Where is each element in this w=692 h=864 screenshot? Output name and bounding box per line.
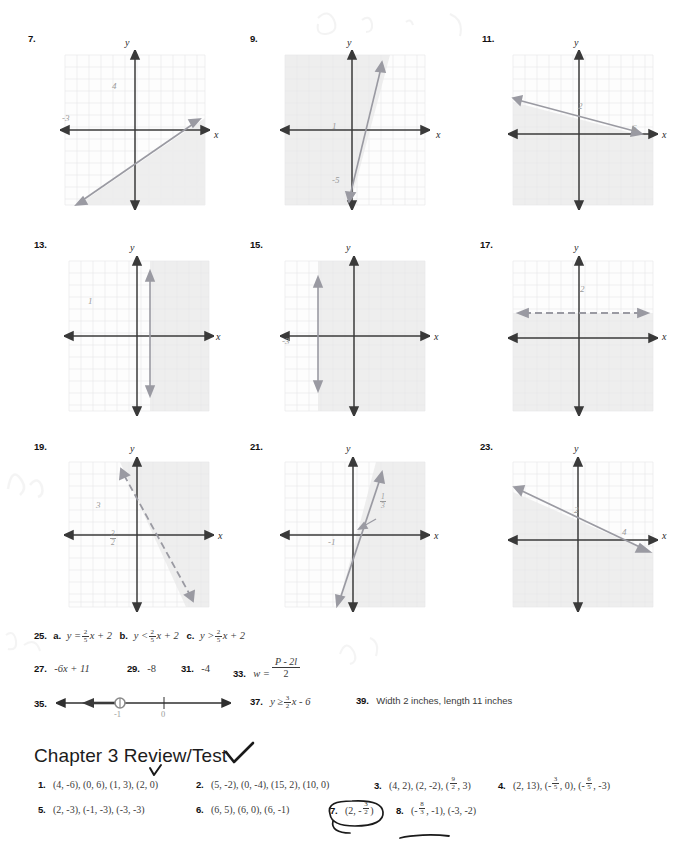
answer-suffix: , 3) [458,780,471,791]
bleedthrough-marks-mid [330,630,450,670]
answer-37-lhs: y ≥ [270,696,283,707]
answer-25a-rhs: x + 2 [90,630,112,641]
checkmark-chapter-title [226,743,253,762]
answer-item-27: 27. -6x + 11 [34,663,90,674]
intercept-label: 1 [332,121,337,131]
coordinate-plane [60,50,210,210]
fraction-item-3: 92 [450,776,457,791]
y-axis-label: y [574,242,578,253]
exercise-number: 23. [480,441,493,452]
y-axis-label: y [346,242,350,253]
intercept-label: 4 [622,527,627,537]
intercept-label-fraction: 13 [380,493,386,510]
y-axis-label: y [130,443,134,454]
answer-25c-rhs: x + 2 [223,630,245,641]
underline-item-8 [400,835,449,838]
review-item-5: 5. (2, -3), (-1, -3), (-3, -3) [38,804,145,815]
graph-exercise-19: 19. y x [0,437,232,627]
x-axis-label: x [216,331,220,342]
y-axis-label: y [347,37,351,48]
x-axis-label: x [214,129,218,140]
intercept-label: 2 [578,101,583,111]
review-item-2: 2. (5, -2), (0, -4), (15, 2), (10, 0) [196,779,329,790]
intercept-label: -3 [282,336,290,346]
answer-number: 25. [34,630,47,641]
y-axis-label: y [574,37,578,48]
answer-number: 6. [196,804,204,815]
answer-number: 2. [196,779,204,790]
intercept-label-fraction: 32 [110,530,116,547]
exercise-number: 9. [250,33,258,44]
y-axis-label: y [574,443,578,454]
answer-item-25: 25. a. y =25x + 2 b. y <25x + 2 c. y >25… [34,629,245,644]
number-line-35: -1 0 [56,693,231,723]
fraction-denominator: 2 [272,668,300,680]
intercept-label: -1 [328,537,336,547]
answer-number: 3. [374,780,382,791]
exercise-number: 7. [28,33,36,44]
answer-number: 4. [498,780,506,791]
coordinate-plane [280,256,430,416]
review-item-3: 3. (4, 2), (2, -2), (92, 3) [374,776,471,791]
answer-value: (2, -3), (-1, -3), (-3, -3) [53,804,145,815]
graph-exercise-7: 7. y x [0,25,232,225]
graph-exercise-11: 11. y x [464,25,692,225]
answer-value: (4, -6), (0, 6), (1, 3), (2, 0) [53,779,158,790]
answer-suffix: ) [370,805,373,816]
tick-label-minus-1: -1 [114,709,121,719]
fraction-25c: 25 [215,629,222,644]
exercise-number: 13. [34,239,47,250]
answer-25b-rhs: x + 2 [157,630,179,641]
answer-number: 37. [250,696,263,707]
graph-exercise-9: 9. y x [232,25,464,225]
fraction-denominator: 5 [552,784,559,791]
answer-value: -8 [147,663,156,674]
answer-value: (6, 5), (6, 0), (6, -1) [211,804,289,815]
graph-exercise-13: 13. y x [0,231,232,431]
coordinate-plane [280,457,430,612]
fraction-item-8: 83 [419,801,426,816]
exercise-number: 19. [34,441,47,452]
fraction-denominator: 5 [586,784,593,791]
answer-number: 35. [34,698,47,709]
answer-suffix: , -3) [593,780,610,791]
fraction-denominator: 3 [419,809,426,816]
x-axis-label: x [662,129,666,140]
x-axis-label: x [434,530,438,541]
exercise-number: 21. [250,441,263,452]
fraction-denominator: 5 [149,637,156,644]
review-item-4: 4. (2, 13), (-35, 0), (-65, -3) [498,776,610,791]
answer-value: (5, -2), (0, -4), (15, 2), (10, 0) [211,779,329,790]
answer-number: 31. [181,663,194,674]
answer-prefix: (4, 2), (2, -2), ( [389,780,449,791]
answer-25b-lhs: y < [134,630,148,641]
fraction-denominator: 5 [215,637,222,644]
intercept-label: 1 [88,296,93,306]
answer-item-37: 37. y ≥32x - 6 [250,695,310,710]
answer-mid: , 0), (- [560,780,585,791]
graph-row-2: 13. y x [0,231,692,431]
intercept-label: -5 [332,175,340,185]
fraction-33: P - 2l2 [272,656,300,680]
answer-25a-lhs: y = [67,630,81,641]
answer-suffix: , -1), (-3, -2) [426,805,476,816]
coordinate-plane [508,256,658,416]
answer-prefix: (- [411,805,418,816]
intercept-label: 2 [580,284,585,294]
x-axis-label: x [436,129,440,140]
answer-item-35: 35. [34,698,47,709]
x-axis-label: x [218,530,222,541]
part-label-b: b. [120,630,128,641]
fraction-numerator: P - 2l [272,656,300,669]
answer-number: 5. [38,804,46,815]
answer-item-29: 29. -8 [127,663,156,674]
review-item-8: 8. (-83, -1), (-3, -2) [396,801,476,816]
fraction-denominator: 3 [380,502,386,510]
fraction-25b: 25 [149,629,156,644]
exercise-number: 15. [250,239,263,250]
x-axis-label: x [662,331,666,342]
intercept-label: -3 [62,113,70,123]
intercept-label: 4 [112,81,117,91]
tick-label-0: 0 [161,709,165,719]
intercept-label: 6 [632,123,637,133]
